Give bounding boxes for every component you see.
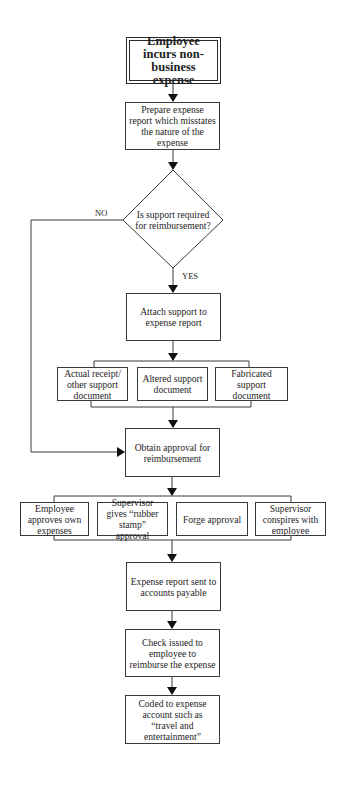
prepare-report-box: Prepare expense report which misstates t… bbox=[125, 102, 220, 150]
support-option-altered: Altered support document bbox=[137, 367, 208, 401]
start-text: Employee incurs non-business expense bbox=[133, 35, 214, 87]
coded-box: Coded to expense account such as “travel… bbox=[125, 695, 220, 744]
approval-option-text: Forge approval bbox=[183, 514, 241, 525]
support-option-text: Altered support document bbox=[141, 373, 204, 395]
no-label: NO bbox=[95, 208, 107, 218]
sent-to-ap-text: Expense report sent to accounts payable bbox=[130, 576, 217, 598]
support-option-text: Fabricated support document bbox=[219, 368, 284, 401]
yes-label: YES bbox=[182, 271, 198, 281]
flowchart: Employee incurs non-business expense Pre… bbox=[0, 0, 344, 785]
start-box: Employee incurs non-business expense bbox=[126, 37, 221, 84]
sent-to-ap-box: Expense report sent to accounts payable bbox=[126, 562, 221, 611]
obtain-approval-text: Obtain approval for reimbursement bbox=[129, 442, 216, 464]
approval-option-text: Supervisor gives “rubber stamp” approval bbox=[101, 497, 164, 541]
approval-option-rubber-stamp: Supervisor gives “rubber stamp” approval bbox=[97, 502, 168, 536]
attach-support-text: Attach support to expense report bbox=[130, 306, 217, 328]
check-issued-box: Check issued to employee to reimburse th… bbox=[125, 629, 220, 677]
support-option-actual-receipt: Actual receipt/ other support document bbox=[57, 367, 128, 401]
approval-option-employee-self: Employee approves own expenses bbox=[20, 502, 89, 536]
support-option-text: Actual receipt/ other support document bbox=[61, 368, 124, 401]
decision-support-required: Is support required for reimbursement? bbox=[133, 200, 213, 240]
attach-support-box: Attach support to expense report bbox=[126, 293, 221, 341]
coded-text: Coded to expense account such as “travel… bbox=[129, 698, 216, 742]
obtain-approval-box: Obtain approval for reimbursement bbox=[125, 428, 220, 477]
approval-option-forge: Forge approval bbox=[176, 502, 248, 536]
approval-option-text: Employee approves own expenses bbox=[24, 503, 85, 536]
approval-option-text: Supervisor conspires with employee bbox=[259, 503, 322, 536]
support-option-fabricated: Fabricated support document bbox=[215, 367, 288, 401]
decision-text: Is support required for reimbursement? bbox=[133, 209, 213, 231]
prepare-report-text: Prepare expense report which misstates t… bbox=[129, 104, 216, 148]
check-issued-text: Check issued to employee to reimburse th… bbox=[129, 637, 216, 670]
approval-option-conspire: Supervisor conspires with employee bbox=[255, 502, 326, 536]
